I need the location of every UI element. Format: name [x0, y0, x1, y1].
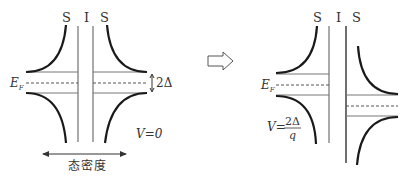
fermi-label: EF — [260, 78, 276, 94]
dos-curve-left-upper — [26, 25, 66, 72]
dos-curve-left-lower — [26, 93, 66, 143]
gap-bracket — [150, 74, 154, 92]
label-insulator: I — [336, 10, 341, 25]
sis-tunneling-diagram: S I S EF 2Δ V=0 — [0, 0, 411, 179]
voltage-numerator: 2Δ — [285, 115, 300, 128]
dos-curve-right-upper — [358, 46, 398, 94]
label-s-left: S — [62, 10, 71, 25]
right-panel: S I S EF V= 2Δ q — [260, 10, 398, 165]
fermi-label: EF — [9, 76, 25, 92]
dos-axis-label: 态密度 — [68, 158, 107, 173]
label-insulator: I — [84, 10, 89, 25]
voltage-label-prefix: V= — [267, 120, 286, 134]
dos-curve-left-upper — [276, 26, 317, 73]
transition-arrow-icon — [208, 52, 233, 70]
label-s-left: S — [313, 10, 322, 25]
voltage-denominator: q — [289, 129, 296, 142]
label-s-right: S — [352, 10, 361, 25]
left-panel: S I S EF 2Δ V=0 — [9, 10, 173, 173]
dos-curve-right-lower — [357, 117, 398, 165]
dos-curve-right-upper — [107, 25, 147, 72]
voltage-label-zero: V=0 — [136, 127, 163, 141]
label-s-right: S — [100, 10, 109, 25]
dos-axis-arrow — [42, 151, 127, 157]
gap-label: 2Δ — [156, 76, 173, 90]
